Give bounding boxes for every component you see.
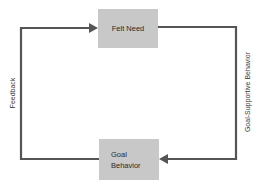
felt-need-label: Felt Need [112, 24, 145, 33]
goal-supportive-line [158, 27, 236, 159]
arrow-left-icon [159, 154, 168, 164]
goal-supportive-behavior-label: Goal-Supportive Behavior [244, 52, 251, 132]
feedback-line [21, 28, 99, 159]
arrow-right-icon [89, 23, 98, 33]
goal-behavior-node: Goal Behavior [99, 139, 159, 180]
felt-need-node: Felt Need [98, 9, 158, 48]
goal-behavior-label-line2: Behavior [111, 160, 159, 171]
goal-behavior-label-line1: Goal [111, 149, 159, 160]
feedback-label: Feedback [9, 78, 16, 109]
